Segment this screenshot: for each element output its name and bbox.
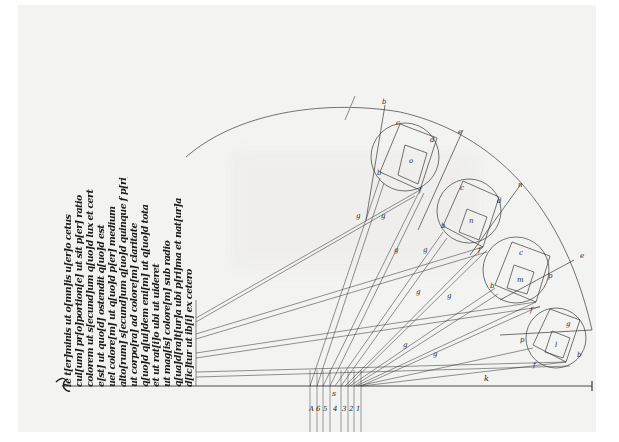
- label-s: s: [332, 389, 336, 398]
- point-label: 2: [348, 405, 354, 413]
- point-label: 4: [332, 405, 337, 413]
- label-tip-e2: e: [580, 252, 584, 260]
- line-marker: g: [394, 246, 399, 254]
- circle-label-l: l: [555, 341, 557, 349]
- tangent-line: [366, 105, 385, 220]
- svg-text:b: b: [377, 169, 382, 177]
- geometric-diagram: b e n e o n m l c d b f c d b f c p b f …: [0, 0, 619, 442]
- large-arc: [186, 107, 592, 330]
- svg-text:f: f: [532, 361, 537, 369]
- rect-l: [545, 331, 570, 358]
- circle-l: [526, 308, 586, 368]
- square-l: [533, 309, 580, 362]
- circle-label-o: o: [409, 157, 413, 165]
- line-marker: g: [403, 341, 408, 349]
- circle-n: [437, 179, 501, 243]
- svg-text:b: b: [490, 282, 495, 290]
- line-marker: g: [356, 212, 361, 220]
- label-tip-b: b: [382, 98, 387, 106]
- svg-text:p: p: [548, 272, 553, 280]
- svg-text:c: c: [460, 184, 464, 192]
- svg-text:f: f: [529, 306, 534, 314]
- label-tip-n: n: [518, 181, 523, 189]
- svg-text:f: f: [477, 246, 482, 254]
- svg-text:p: p: [520, 336, 525, 344]
- point-label: 6: [316, 405, 321, 413]
- line-marker: g: [416, 288, 421, 296]
- circle-label-n: n: [469, 217, 474, 225]
- svg-text:c: c: [519, 249, 523, 257]
- svg-text:g: g: [566, 320, 571, 328]
- point-label: A: [308, 405, 314, 413]
- svg-text:b: b: [577, 351, 582, 359]
- line-marker: g: [423, 246, 428, 254]
- svg-text:f: f: [418, 186, 423, 194]
- point-label: 5: [323, 405, 328, 413]
- svg-text:b: b: [441, 222, 446, 230]
- pen-flourish: [56, 378, 70, 391]
- svg-text:d: d: [430, 136, 435, 144]
- svg-text:c: c: [396, 119, 400, 127]
- line-marker: g: [433, 350, 438, 358]
- circle-o: [371, 123, 439, 191]
- circle-label-m: m: [517, 276, 524, 284]
- label-k: k: [484, 374, 489, 383]
- point-label: 1: [356, 405, 360, 413]
- line-marker: g: [447, 292, 452, 300]
- circle-m: [483, 237, 549, 303]
- point-label: 3: [342, 405, 347, 413]
- svg-text:d: d: [497, 197, 502, 205]
- line-marker: g: [381, 212, 386, 220]
- label-tip-e: e: [458, 128, 462, 136]
